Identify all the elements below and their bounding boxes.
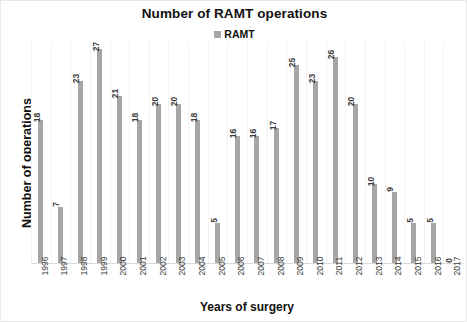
bar-slot: 18 [188, 41, 208, 263]
bar[interactable] [117, 96, 122, 263]
bar[interactable] [372, 184, 377, 263]
x-label-slot: 2008 [267, 264, 287, 298]
x-label-slot: 2004 [188, 264, 208, 298]
bar-value-label: 5 [405, 218, 414, 223]
bar-value-label: 20 [347, 96, 356, 105]
x-axis-label: 2005 [218, 257, 227, 276]
bar-value-label: 26 [327, 49, 336, 58]
bar-value-label: 27 [91, 41, 100, 50]
x-label-slot: 2007 [247, 264, 267, 298]
bar-slot: 10 [365, 41, 385, 263]
bar-slot: 18 [129, 41, 149, 263]
bar[interactable] [333, 57, 338, 263]
bar[interactable] [156, 104, 161, 263]
x-label-slot: 2002 [149, 264, 169, 298]
bar-value-label: 9 [386, 187, 395, 192]
bar-slot: 21 [110, 41, 130, 263]
bar-slot: 17 [267, 41, 287, 263]
legend-swatch-ramt [214, 31, 221, 38]
x-label-slot: 2005 [208, 264, 228, 298]
bar-slot: 20 [168, 41, 188, 263]
bar-slot: 23 [306, 41, 326, 263]
x-label-slot: 2009 [286, 264, 306, 298]
x-axis-label: 2004 [198, 257, 207, 276]
bar[interactable] [78, 81, 83, 263]
x-axis-label: 2002 [159, 257, 168, 276]
x-label-slot: 2010 [306, 264, 326, 298]
bar-value-label: 10 [366, 176, 375, 185]
x-label-slot: 2017 [443, 264, 463, 298]
x-label-slot: 2011 [326, 264, 346, 298]
bar[interactable] [97, 49, 102, 263]
x-label-slot: 2016 [424, 264, 444, 298]
chart-legend: RAMT [1, 28, 467, 40]
bar-slot: 20 [345, 41, 365, 263]
x-axis-label: 1996 [41, 257, 50, 276]
x-axis-label: 2015 [414, 257, 423, 276]
bar-slot: 23 [70, 41, 90, 263]
x-axis-label: 2010 [316, 257, 325, 276]
bar[interactable] [353, 104, 358, 263]
bar-value-label: 7 [52, 202, 61, 207]
bar-slot: 26 [326, 41, 346, 263]
bar-value-label: 16 [229, 128, 238, 137]
x-axis-label: 2012 [355, 257, 364, 276]
x-axis-label: 2008 [277, 257, 286, 276]
bar[interactable] [195, 120, 200, 263]
bar-slot: 25 [286, 41, 306, 263]
bar[interactable] [313, 81, 318, 263]
bar-slot: 16 [247, 41, 267, 263]
bar-slot: 9 [385, 41, 405, 263]
x-axis-tick-labels: 1996199719981999200020012002200320042005… [31, 264, 463, 298]
bar-series: 18723272118202018516161725232620109550 [31, 41, 463, 263]
x-label-slot: 2015 [404, 264, 424, 298]
bar-value-label: 5 [209, 218, 218, 223]
x-axis-label: 2014 [394, 257, 403, 276]
legend-label-ramt: RAMT [224, 28, 254, 40]
x-axis-label: 2007 [257, 257, 266, 276]
x-label-slot: 2014 [385, 264, 405, 298]
bar-value-label: 20 [170, 96, 179, 105]
x-label-slot: 1997 [51, 264, 71, 298]
x-axis-label: 2006 [237, 257, 246, 276]
x-axis-label: 2011 [335, 257, 344, 275]
plot-area: 18723272118202018516161725232620109550 [31, 41, 463, 263]
x-label-slot: 2001 [129, 264, 149, 298]
x-axis-label: 2001 [139, 257, 148, 276]
bar[interactable] [38, 120, 43, 263]
x-label-slot: 2012 [345, 264, 365, 298]
bar-value-label: 18 [189, 112, 198, 121]
bar[interactable] [254, 136, 259, 263]
bar[interactable] [274, 128, 279, 263]
x-label-slot: 2013 [365, 264, 385, 298]
bar-slot: 16 [227, 41, 247, 263]
bar-slot: 20 [149, 41, 169, 263]
bar[interactable] [235, 136, 240, 263]
chart-container: Number of RAMT operations RAMT Number of… [0, 0, 467, 322]
x-label-slot: 1996 [31, 264, 51, 298]
bar-value-label: 23 [307, 73, 316, 82]
bar-value-label: 18 [131, 112, 140, 121]
bar[interactable] [137, 120, 142, 263]
bar-value-label: 21 [111, 88, 120, 97]
x-axis-label: 2000 [119, 257, 128, 276]
bar-value-label: 17 [268, 120, 277, 129]
bar-value-label: 16 [248, 128, 257, 137]
bar[interactable] [392, 192, 397, 263]
bar-slot: 27 [90, 41, 110, 263]
x-axis-label: 1998 [80, 257, 89, 276]
bar-value-label: 18 [32, 112, 41, 121]
bar[interactable] [176, 104, 181, 263]
bar-slot: 5 [208, 41, 228, 263]
bar-slot: 7 [51, 41, 71, 263]
x-label-slot: 2000 [110, 264, 130, 298]
x-label-slot: 2003 [168, 264, 188, 298]
x-axis-label: 2013 [375, 257, 384, 276]
bar[interactable] [294, 65, 299, 263]
x-axis-label: 2003 [178, 257, 187, 276]
x-axis-label: 2009 [296, 257, 305, 276]
bar-slot: 5 [424, 41, 444, 263]
bar-value-label: 20 [150, 96, 159, 105]
bar-value-label: 25 [288, 57, 297, 66]
bar[interactable] [58, 207, 63, 263]
